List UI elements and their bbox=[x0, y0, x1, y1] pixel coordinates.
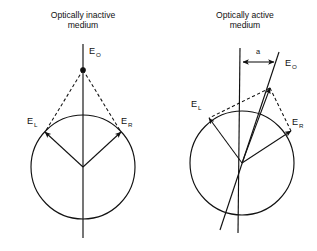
panel-optically-inactive: Optically inactive medium E O E L E R bbox=[27, 10, 135, 238]
right-dashed-construction-right bbox=[270, 88, 291, 131]
left-label-EO-sub: O bbox=[96, 51, 101, 58]
right-label-EO: E O bbox=[285, 58, 297, 70]
right-label-EL: E L bbox=[191, 99, 202, 111]
right-rotated-axis bbox=[220, 52, 279, 230]
left-panel-title-line2: medium bbox=[68, 20, 99, 30]
left-label-EO-base: E bbox=[89, 46, 95, 56]
right-vector-ER bbox=[242, 131, 291, 163]
right-label-EL-sub: L bbox=[198, 104, 202, 111]
left-label-EO: E O bbox=[89, 46, 101, 58]
right-label-ER-sub: R bbox=[299, 122, 304, 129]
left-vector-ER bbox=[83, 132, 121, 167]
left-dashed-construction-left bbox=[45, 70, 83, 132]
right-vertical-reference-axis bbox=[238, 48, 240, 233]
left-label-ER-sub: R bbox=[128, 121, 133, 128]
left-panel-title-line1: Optically inactive bbox=[51, 10, 116, 20]
left-label-EL-base: E bbox=[27, 116, 33, 126]
right-label-EO-base: E bbox=[285, 58, 291, 68]
right-vector-EO bbox=[242, 88, 270, 163]
right-panel-title-line2: medium bbox=[230, 20, 261, 30]
panel-optically-active: Optically active medium a E O E L bbox=[190, 10, 304, 233]
right-label-ER-base: E bbox=[292, 117, 298, 127]
left-label-ER-base: E bbox=[121, 116, 127, 126]
left-label-EL-sub: L bbox=[34, 121, 38, 128]
right-label-ER: E R bbox=[292, 117, 304, 129]
left-dashed-construction-right bbox=[83, 70, 121, 132]
right-label-EO-sub: O bbox=[292, 63, 297, 70]
left-label-EL: E L bbox=[27, 116, 38, 128]
right-vector-EL bbox=[209, 118, 242, 163]
polarization-rotation-diagram: Optically inactive medium E O E L E R bbox=[0, 0, 317, 251]
right-panel-title-line1: Optically active bbox=[216, 10, 274, 20]
left-label-ER: E R bbox=[121, 116, 133, 128]
left-vector-EL bbox=[45, 132, 83, 167]
rotation-angle-label: a bbox=[256, 47, 261, 56]
right-label-EL-base: E bbox=[191, 99, 197, 109]
